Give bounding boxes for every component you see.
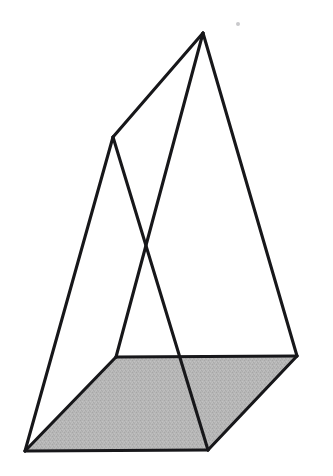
edge-base-top <box>116 356 297 357</box>
geometric-figure-svg <box>0 0 333 476</box>
scan-artifact-speck <box>236 22 240 26</box>
edge-apex-to-base-right <box>203 33 297 356</box>
edge-base-bottom <box>25 450 208 451</box>
shaded-base-face <box>25 356 297 451</box>
figure-canvas <box>0 0 333 476</box>
